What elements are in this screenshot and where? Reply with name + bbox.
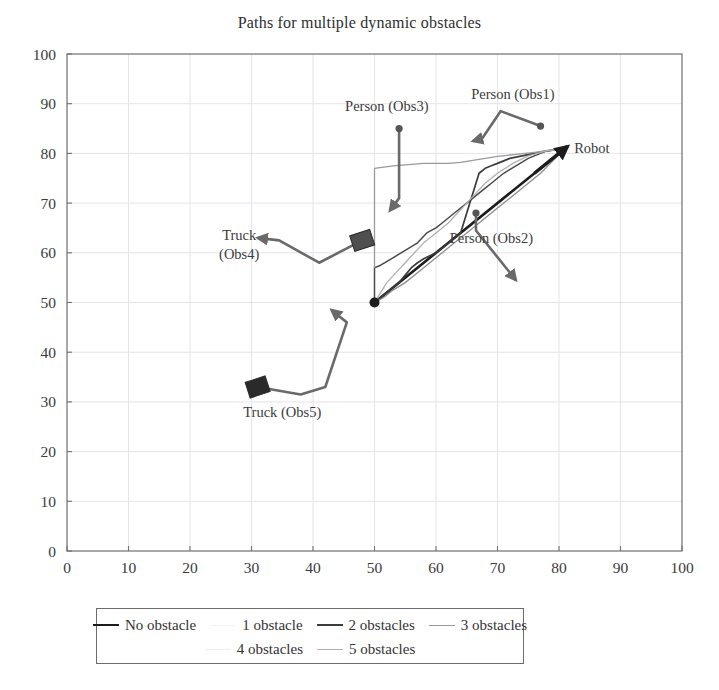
y-axis-tick-label: 80 xyxy=(41,145,57,162)
y-axis-tick-label: 10 xyxy=(41,493,57,510)
legend-label: 4 obstacles xyxy=(237,641,303,658)
legend-line-swatch xyxy=(210,625,236,626)
x-axis-tick-label: 60 xyxy=(428,559,444,576)
start-point-marker xyxy=(370,298,380,308)
obstacle-marker xyxy=(245,376,270,398)
obstacle-trajectory xyxy=(258,238,363,263)
legend-label: 1 obstacle xyxy=(242,617,302,634)
obstacle-marker-dot xyxy=(396,125,403,132)
robot-label: Robot xyxy=(574,140,609,156)
legend-item[interactable]: 5 obstacles xyxy=(317,641,415,658)
obstacle-marker-dot xyxy=(472,209,479,216)
obstacle-marker-square xyxy=(245,376,270,398)
obstacle-label: Person (Obs2) xyxy=(450,230,534,247)
obstacle-label: Truck (Obs5) xyxy=(243,404,321,421)
obstacles-group xyxy=(245,111,544,398)
obstacle-marker-dot xyxy=(537,122,544,129)
y-axis-tick-label: 20 xyxy=(41,443,57,460)
x-axis-tick-label: 80 xyxy=(551,559,567,576)
chart-legend: No obstacle1 obstacle2 obstacles3 obstac… xyxy=(96,608,524,664)
legend-row-2: 4 obstacles5 obstacles xyxy=(105,637,515,661)
obstacle-label: (Obs4) xyxy=(219,246,259,263)
legend-label: 2 obstacles xyxy=(349,617,415,634)
y-axis-tick-label: 100 xyxy=(33,46,57,63)
legend-item[interactable]: 3 obstacles xyxy=(429,617,527,634)
legend-item[interactable]: 4 obstacles xyxy=(205,641,303,658)
y-axis-tick-label: 30 xyxy=(41,393,57,410)
obstacle-trajectory xyxy=(390,129,399,211)
obstacle-marker xyxy=(350,229,375,251)
x-axis-tick-label: 100 xyxy=(670,559,694,576)
obstacle-marker-square xyxy=(350,229,375,251)
x-axis-tick-label: 50 xyxy=(367,559,383,576)
x-axis-tick-label: 30 xyxy=(244,559,260,576)
obstacle-trajectory xyxy=(476,213,516,280)
legend-label: No obstacle xyxy=(125,617,196,634)
legend-item[interactable]: 1 obstacle xyxy=(210,617,302,634)
legend-line-swatch xyxy=(93,624,119,626)
obstacle-label: Person (Obs1) xyxy=(471,86,555,103)
legend-label: 3 obstacles xyxy=(461,617,527,634)
chart-root: Paths for multiple dynamic obstacles 010… xyxy=(0,0,719,690)
x-axis-tick-label: 0 xyxy=(63,559,71,576)
x-axis-tick-label: 20 xyxy=(182,559,198,576)
y-axis-tick-label: 90 xyxy=(41,95,57,112)
legend-line-swatch xyxy=(317,624,343,626)
obstacle-trajectory xyxy=(473,111,541,141)
legend-line-swatch xyxy=(317,649,343,650)
obstacle-label: Person (Obs3) xyxy=(345,98,429,115)
x-axis-tick-label: 40 xyxy=(305,559,321,576)
x-axis-tick-label: 10 xyxy=(121,559,137,576)
y-axis-tick-label: 60 xyxy=(41,244,57,261)
x-axis-tick-label: 70 xyxy=(490,559,506,576)
plot-area: 0102030405060708090100010203040506070809… xyxy=(0,0,719,600)
y-axis-tick-label: 70 xyxy=(41,195,57,212)
legend-row-1: No obstacle1 obstacle2 obstacles3 obstac… xyxy=(105,613,515,637)
tick-label-group: 0102030405060708090100010203040506070809… xyxy=(33,46,694,577)
legend-item[interactable]: 2 obstacles xyxy=(317,617,415,634)
legend-line-swatch xyxy=(429,625,455,626)
plot-svg: 0102030405060708090100010203040506070809… xyxy=(0,0,719,600)
y-axis-tick-label: 50 xyxy=(41,294,57,311)
obstacle-label: Truck xyxy=(222,227,257,243)
x-axis-tick-label: 90 xyxy=(613,559,629,576)
legend-item[interactable]: No obstacle xyxy=(93,617,196,634)
legend-label: 5 obstacles xyxy=(349,641,415,658)
y-axis-tick-label: 40 xyxy=(41,344,57,361)
y-axis-tick-label: 0 xyxy=(48,543,56,560)
series-path xyxy=(375,148,566,267)
legend-line-swatch xyxy=(205,649,231,650)
